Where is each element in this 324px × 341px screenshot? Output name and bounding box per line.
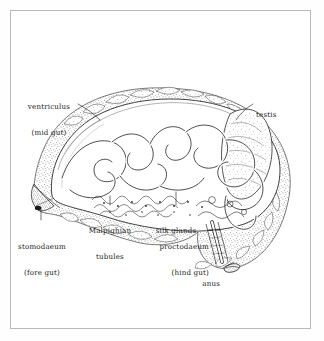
label-testis-line1: testis [256,111,300,120]
label-anus: anus [186,263,220,306]
label-ventriculus-line2: (mid gut) [16,129,82,138]
label-malpighian-tubules: Malpighian tubules [80,210,140,279]
label-malpighian-line1: Malpighian [80,227,140,236]
label-proctodaeum-line1: proctodaeum [143,243,209,252]
label-stomodaeum: stomodaeum (fore gut) [10,226,74,295]
label-stomodaeum-line1: stomodaeum [10,243,74,252]
label-ventriculus: ventriculus (mid gut) [16,86,82,155]
label-ventriculus-line1: ventriculus [16,103,82,112]
figure-container: ventriculus (mid gut) testis stomodaeum … [0,0,324,341]
label-malpighian-line2: tubules [80,253,140,262]
label-testis: testis [256,94,300,137]
label-anus-line1: anus [186,280,220,289]
label-stomodaeum-line2: (fore gut) [10,269,74,278]
